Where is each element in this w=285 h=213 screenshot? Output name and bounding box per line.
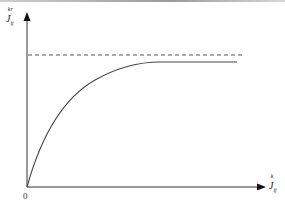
y-axis-arrow-icon — [24, 12, 31, 21]
chart-plot — [0, 0, 285, 213]
x-axis-label: Jijk — [269, 181, 279, 191]
origin-label: 0 — [23, 191, 28, 201]
saturation-curve — [27, 62, 237, 187]
x-axis-arrow-icon — [257, 184, 266, 191]
y-axis-label: Jijkr — [6, 14, 19, 24]
